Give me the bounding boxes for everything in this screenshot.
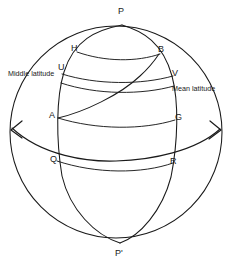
label-point-b: B [158,45,164,54]
label-point-p: P [118,7,124,16]
great-circle-a-b [58,54,159,118]
sphere-outline [10,26,222,238]
sphere-svg [0,0,235,266]
parallel-h-b [77,52,160,60]
label-point-u: U [58,63,65,72]
label-point-p-prime: P' [115,249,123,258]
label-middle-latitude: Middle latitude [8,70,54,77]
left-meridian [58,25,122,243]
parallel-a-g [58,118,175,127]
sphere-diagram: P H B U V A G Q R P' Middle latitude Mea… [0,0,235,266]
label-point-v: V [172,69,178,78]
parallel-u-v [62,74,173,83]
label-point-q: Q [50,155,57,164]
parallel-mean-latitude [61,83,174,92]
label-point-r: R [170,157,177,166]
equator-arc [12,128,220,161]
label-point-h: H [71,44,78,53]
label-point-a: A [49,111,55,120]
label-mean-latitude: Mean latitude [172,85,215,92]
label-point-g: G [175,113,182,122]
parallel-q-r [57,161,173,171]
